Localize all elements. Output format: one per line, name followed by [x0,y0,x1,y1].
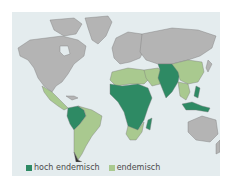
legend-item-highly-endemic: hoch endemisch [26,163,100,172]
map-legend: hoch endemisch endemisch [26,163,169,172]
legend-label-highly-endemic: hoch endemisch [34,163,100,172]
region-greenland [85,16,112,44]
highly-endemic-swatch-icon [26,165,32,171]
legend-label-endemic: endemisch [117,163,161,172]
region-southeast-asia [178,82,190,100]
region-indonesia [182,102,210,112]
endemic-swatch-icon [109,165,115,171]
region-australia [188,116,218,142]
world-map [12,12,220,162]
region-north-asia [140,28,216,64]
region-central-america [42,86,68,110]
legend-item-endemic: endemisch [109,163,161,172]
region-subsaharan-africa [110,84,152,134]
map-panel: hoch endemisch endemisch [12,12,220,176]
region-north-america [18,36,86,92]
region-arctic-islands [50,18,82,36]
